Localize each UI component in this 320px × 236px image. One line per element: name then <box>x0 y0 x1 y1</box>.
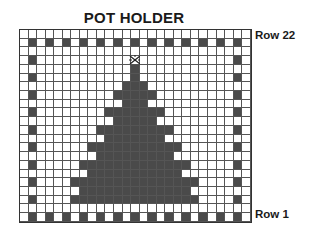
filled-cell <box>131 126 140 135</box>
filled-cell <box>105 135 114 144</box>
empty-cell <box>191 100 200 109</box>
empty-cell <box>199 100 208 109</box>
filled-cell <box>71 196 80 205</box>
empty-cell <box>20 47 29 56</box>
empty-cell <box>242 82 251 91</box>
empty-cell <box>217 56 226 65</box>
empty-cell <box>199 74 208 83</box>
empty-cell <box>71 204 80 213</box>
filled-cell <box>182 39 191 48</box>
empty-cell <box>174 152 183 161</box>
empty-cell <box>46 126 55 135</box>
empty-cell <box>234 82 243 91</box>
empty-cell <box>80 170 89 179</box>
empty-cell <box>20 170 29 179</box>
empty-cell <box>37 39 46 48</box>
empty-cell <box>80 126 89 135</box>
empty-cell <box>97 100 106 109</box>
filled-cell <box>88 187 97 196</box>
empty-cell <box>208 170 217 179</box>
empty-cell <box>88 213 97 222</box>
filled-cell <box>123 187 132 196</box>
filled-cell <box>157 152 166 161</box>
filled-cell <box>174 196 183 205</box>
filled-cell <box>157 178 166 187</box>
filled-cell <box>46 213 55 222</box>
empty-cell <box>199 178 208 187</box>
filled-cell <box>29 143 38 152</box>
empty-cell <box>148 82 157 91</box>
filled-cell <box>140 82 149 91</box>
empty-cell <box>148 47 157 56</box>
empty-cell <box>54 135 63 144</box>
empty-cell <box>165 204 174 213</box>
empty-cell <box>46 74 55 83</box>
empty-cell <box>88 117 97 126</box>
empty-cell <box>20 91 29 100</box>
empty-cell <box>191 161 200 170</box>
empty-cell <box>157 213 166 222</box>
filled-cell <box>182 161 191 170</box>
empty-cell <box>131 30 140 39</box>
empty-cell <box>174 117 183 126</box>
filled-cell <box>148 196 157 205</box>
empty-cell <box>217 108 226 117</box>
empty-cell <box>199 161 208 170</box>
filled-cell <box>140 152 149 161</box>
empty-cell <box>54 65 63 74</box>
empty-cell <box>140 39 149 48</box>
filled-cell <box>148 143 157 152</box>
empty-cell <box>191 47 200 56</box>
filled-cell <box>182 196 191 205</box>
filled-cell <box>199 213 208 222</box>
filled-cell <box>29 126 38 135</box>
empty-cell <box>208 187 217 196</box>
empty-cell <box>114 30 123 39</box>
filled-cell <box>123 178 132 187</box>
empty-cell <box>234 30 243 39</box>
filled-cell <box>131 39 140 48</box>
empty-cell <box>46 161 55 170</box>
empty-cell <box>46 170 55 179</box>
empty-cell <box>140 56 149 65</box>
filled-cell <box>157 187 166 196</box>
empty-cell <box>208 213 217 222</box>
empty-cell <box>88 126 97 135</box>
empty-cell <box>191 204 200 213</box>
row-22-label: Row 22 <box>255 29 295 41</box>
empty-cell <box>140 30 149 39</box>
empty-cell <box>37 100 46 109</box>
empty-cell <box>88 108 97 117</box>
empty-cell <box>148 100 157 109</box>
filled-cell <box>88 161 97 170</box>
empty-cell <box>29 204 38 213</box>
filled-cell <box>131 135 140 144</box>
empty-cell <box>242 108 251 117</box>
empty-cell <box>97 30 106 39</box>
empty-cell <box>20 30 29 39</box>
empty-cell <box>114 82 123 91</box>
empty-cell <box>225 135 234 144</box>
empty-cell <box>199 91 208 100</box>
filled-cell <box>165 161 174 170</box>
empty-cell <box>63 187 72 196</box>
empty-cell <box>225 213 234 222</box>
empty-cell <box>182 91 191 100</box>
empty-cell <box>37 117 46 126</box>
empty-cell <box>20 82 29 91</box>
empty-cell <box>29 117 38 126</box>
empty-cell <box>208 196 217 205</box>
empty-cell <box>46 47 55 56</box>
empty-cell <box>105 204 114 213</box>
empty-cell <box>54 74 63 83</box>
empty-cell <box>225 196 234 205</box>
filled-cell <box>105 178 114 187</box>
empty-cell <box>20 161 29 170</box>
empty-cell <box>242 178 251 187</box>
empty-cell <box>71 135 80 144</box>
empty-cell <box>105 47 114 56</box>
empty-cell <box>191 152 200 161</box>
empty-cell <box>20 204 29 213</box>
filled-cell <box>114 152 123 161</box>
empty-cell <box>140 204 149 213</box>
